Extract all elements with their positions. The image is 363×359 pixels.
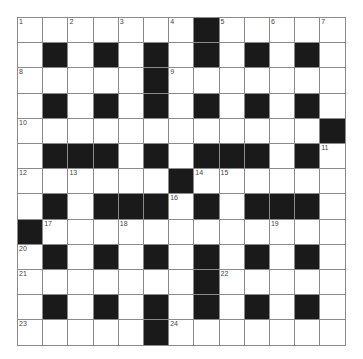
answer-cell[interactable]: 9 bbox=[169, 68, 194, 93]
answer-cell[interactable]: 19 bbox=[270, 220, 295, 245]
answer-cell[interactable] bbox=[119, 144, 144, 169]
answer-cell[interactable]: 4 bbox=[169, 18, 194, 43]
answer-cell[interactable] bbox=[68, 245, 93, 270]
answer-cell[interactable] bbox=[144, 18, 169, 43]
answer-cell[interactable] bbox=[119, 169, 144, 194]
answer-cell[interactable] bbox=[94, 68, 119, 93]
answer-cell[interactable] bbox=[295, 270, 320, 295]
answer-cell[interactable]: 10 bbox=[18, 119, 43, 144]
answer-cell[interactable] bbox=[144, 270, 169, 295]
answer-cell[interactable] bbox=[169, 295, 194, 320]
answer-cell[interactable] bbox=[68, 220, 93, 245]
answer-cell[interactable]: 11 bbox=[320, 144, 345, 169]
answer-cell[interactable] bbox=[43, 320, 68, 345]
answer-cell[interactable] bbox=[220, 94, 245, 119]
answer-cell[interactable] bbox=[245, 270, 270, 295]
answer-cell[interactable] bbox=[169, 220, 194, 245]
answer-cell[interactable] bbox=[220, 43, 245, 68]
answer-cell[interactable] bbox=[43, 270, 68, 295]
answer-cell[interactable]: 21 bbox=[18, 270, 43, 295]
answer-cell[interactable] bbox=[270, 119, 295, 144]
answer-cell[interactable] bbox=[18, 194, 43, 219]
answer-cell[interactable] bbox=[43, 18, 68, 43]
answer-cell[interactable] bbox=[194, 220, 219, 245]
answer-cell[interactable] bbox=[220, 320, 245, 345]
answer-cell[interactable] bbox=[119, 295, 144, 320]
answer-cell[interactable] bbox=[68, 320, 93, 345]
answer-cell[interactable] bbox=[68, 194, 93, 219]
answer-cell[interactable] bbox=[270, 43, 295, 68]
answer-cell[interactable] bbox=[94, 320, 119, 345]
answer-cell[interactable] bbox=[68, 295, 93, 320]
answer-cell[interactable] bbox=[245, 18, 270, 43]
answer-cell[interactable] bbox=[245, 220, 270, 245]
answer-cell[interactable] bbox=[169, 43, 194, 68]
answer-cell[interactable] bbox=[245, 68, 270, 93]
answer-cell[interactable]: 3 bbox=[119, 18, 144, 43]
answer-cell[interactable]: 15 bbox=[220, 169, 245, 194]
answer-cell[interactable] bbox=[270, 270, 295, 295]
answer-cell[interactable] bbox=[194, 68, 219, 93]
answer-cell[interactable] bbox=[270, 68, 295, 93]
answer-cell[interactable] bbox=[220, 295, 245, 320]
answer-cell[interactable] bbox=[169, 144, 194, 169]
answer-cell[interactable]: 5 bbox=[220, 18, 245, 43]
answer-cell[interactable]: 8 bbox=[18, 68, 43, 93]
answer-cell[interactable] bbox=[119, 43, 144, 68]
answer-cell[interactable] bbox=[94, 169, 119, 194]
answer-cell[interactable] bbox=[320, 245, 345, 270]
answer-cell[interactable] bbox=[94, 119, 119, 144]
answer-cell[interactable] bbox=[169, 245, 194, 270]
answer-cell[interactable] bbox=[43, 169, 68, 194]
answer-cell[interactable] bbox=[220, 194, 245, 219]
answer-cell[interactable] bbox=[18, 295, 43, 320]
answer-cell[interactable] bbox=[68, 270, 93, 295]
answer-cell[interactable] bbox=[320, 295, 345, 320]
answer-cell[interactable] bbox=[68, 43, 93, 68]
answer-cell[interactable]: 22 bbox=[220, 270, 245, 295]
answer-cell[interactable] bbox=[320, 169, 345, 194]
answer-cell[interactable] bbox=[119, 270, 144, 295]
answer-cell[interactable]: 24 bbox=[169, 320, 194, 345]
answer-cell[interactable] bbox=[320, 94, 345, 119]
answer-cell[interactable] bbox=[220, 220, 245, 245]
answer-cell[interactable] bbox=[320, 320, 345, 345]
answer-cell[interactable] bbox=[245, 119, 270, 144]
answer-cell[interactable] bbox=[295, 169, 320, 194]
answer-cell[interactable] bbox=[270, 169, 295, 194]
answer-cell[interactable]: 17 bbox=[43, 220, 68, 245]
answer-cell[interactable] bbox=[270, 144, 295, 169]
answer-cell[interactable] bbox=[320, 270, 345, 295]
answer-cell[interactable] bbox=[194, 119, 219, 144]
answer-cell[interactable] bbox=[43, 119, 68, 144]
answer-cell[interactable]: 12 bbox=[18, 169, 43, 194]
answer-cell[interactable] bbox=[320, 194, 345, 219]
answer-cell[interactable]: 18 bbox=[119, 220, 144, 245]
answer-cell[interactable] bbox=[270, 320, 295, 345]
answer-cell[interactable] bbox=[94, 270, 119, 295]
answer-cell[interactable] bbox=[94, 220, 119, 245]
answer-cell[interactable] bbox=[169, 119, 194, 144]
answer-cell[interactable] bbox=[245, 169, 270, 194]
answer-cell[interactable] bbox=[144, 119, 169, 144]
answer-cell[interactable] bbox=[119, 320, 144, 345]
answer-cell[interactable] bbox=[68, 119, 93, 144]
answer-cell[interactable]: 2 bbox=[68, 18, 93, 43]
answer-cell[interactable] bbox=[144, 220, 169, 245]
answer-cell[interactable] bbox=[270, 245, 295, 270]
answer-cell[interactable] bbox=[295, 220, 320, 245]
answer-cell[interactable] bbox=[119, 94, 144, 119]
answer-cell[interactable]: 6 bbox=[270, 18, 295, 43]
answer-cell[interactable]: 14 bbox=[194, 169, 219, 194]
answer-cell[interactable] bbox=[295, 119, 320, 144]
answer-cell[interactable] bbox=[270, 94, 295, 119]
answer-cell[interactable] bbox=[144, 169, 169, 194]
answer-cell[interactable] bbox=[18, 144, 43, 169]
answer-cell[interactable] bbox=[320, 220, 345, 245]
answer-cell[interactable]: 20 bbox=[18, 245, 43, 270]
answer-cell[interactable] bbox=[220, 119, 245, 144]
answer-cell[interactable] bbox=[295, 68, 320, 93]
answer-cell[interactable] bbox=[119, 119, 144, 144]
answer-cell[interactable] bbox=[220, 245, 245, 270]
answer-cell[interactable] bbox=[18, 94, 43, 119]
